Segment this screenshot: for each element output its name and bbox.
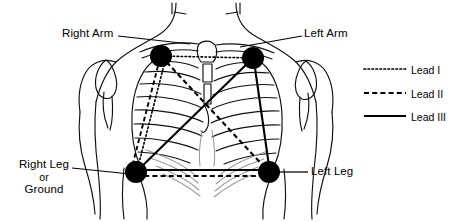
rib-right-2 <box>214 72 269 81</box>
legend-sample-lines <box>364 69 406 116</box>
right-side-body-outline <box>312 102 317 219</box>
label-right-leg-line-1: Right Leg <box>4 158 84 171</box>
label-right-leg-line-2: or <box>4 171 84 184</box>
label-left-leg: Left Leg <box>311 165 353 178</box>
waist-right <box>284 169 286 219</box>
label-right-leg-or-ground: Right Leg or Ground <box>4 158 84 196</box>
label-right-arm: Right Arm <box>62 27 113 40</box>
humerus-right <box>304 93 309 129</box>
lead-2-line-ra-rl <box>133 66 158 163</box>
rib-right-5 <box>211 111 279 123</box>
label-right-leg-line-3: Ground <box>4 183 84 196</box>
hip-crease-right <box>263 179 270 219</box>
rib-left-2 <box>145 71 200 80</box>
torso-anatomy-artwork <box>79 3 333 219</box>
label-left-arm: Left Arm <box>304 27 348 40</box>
rib-right-4 <box>212 98 277 109</box>
electrode-left-arm[interactable] <box>242 47 264 69</box>
humerus-right-edge <box>299 97 302 131</box>
waist-left <box>123 168 125 219</box>
legend-label-lead-2: Lead II <box>411 88 443 100</box>
manubrium <box>197 41 216 62</box>
shoulder-tick-right <box>226 12 238 14</box>
electrode-right-arm[interactable] <box>150 45 172 67</box>
legend-label-lead-1: Lead I <box>411 64 440 76</box>
ecg-lead-placement-diagram: Right Arm Left Arm Left Leg Right Leg or… <box>0 0 458 222</box>
right-arm-outline <box>317 112 333 214</box>
lead-1-line-ra-la <box>161 56 253 58</box>
humerus-left-edge <box>110 96 113 130</box>
ribcage-right-contour <box>262 63 282 167</box>
left-side-body-outline <box>95 102 100 219</box>
rib-right-3 <box>213 84 274 95</box>
humerus-left <box>103 92 108 128</box>
electrode-left-leg[interactable] <box>258 161 280 183</box>
shoulder-tick-left <box>174 12 186 14</box>
rib-right-6 <box>212 125 280 137</box>
legend-label-lead-3: Lead III <box>411 111 446 123</box>
lead-3-line-la-ll <box>255 68 269 166</box>
hip-crease-left <box>140 178 147 219</box>
sternum-body-upper <box>203 64 212 82</box>
xiphoid-process <box>201 106 209 132</box>
rib-left-6 <box>134 124 202 136</box>
electrode-right-leg[interactable] <box>125 161 147 183</box>
